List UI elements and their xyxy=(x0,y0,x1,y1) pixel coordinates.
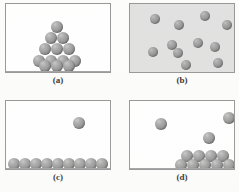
sphere xyxy=(63,43,75,55)
panel-b-caption: (b) xyxy=(162,75,202,85)
panel-b xyxy=(129,3,235,73)
sphere xyxy=(222,20,232,30)
sphere xyxy=(73,117,85,129)
sphere xyxy=(150,14,160,24)
sphere xyxy=(39,43,51,55)
sphere xyxy=(213,58,223,68)
panel-d xyxy=(129,100,235,170)
panel-a-caption: (a) xyxy=(38,75,78,85)
container-floor xyxy=(130,168,234,169)
states-of-matter-figure: (a) (b) (c) xyxy=(0,0,239,192)
panel-a xyxy=(5,3,111,73)
panel-c xyxy=(5,100,111,170)
container-floor xyxy=(6,71,110,72)
sphere xyxy=(210,42,220,52)
sphere xyxy=(155,118,167,130)
sphere xyxy=(200,11,210,21)
sphere xyxy=(223,112,235,124)
sphere xyxy=(51,43,63,55)
sphere xyxy=(193,38,203,48)
sphere xyxy=(174,20,184,30)
sphere xyxy=(181,60,191,70)
panel-d-caption: (d) xyxy=(162,172,202,182)
sphere xyxy=(148,47,158,57)
panel-c-caption: (c) xyxy=(38,172,78,182)
sphere xyxy=(203,132,215,144)
container-floor xyxy=(6,168,110,169)
sphere xyxy=(173,48,183,58)
